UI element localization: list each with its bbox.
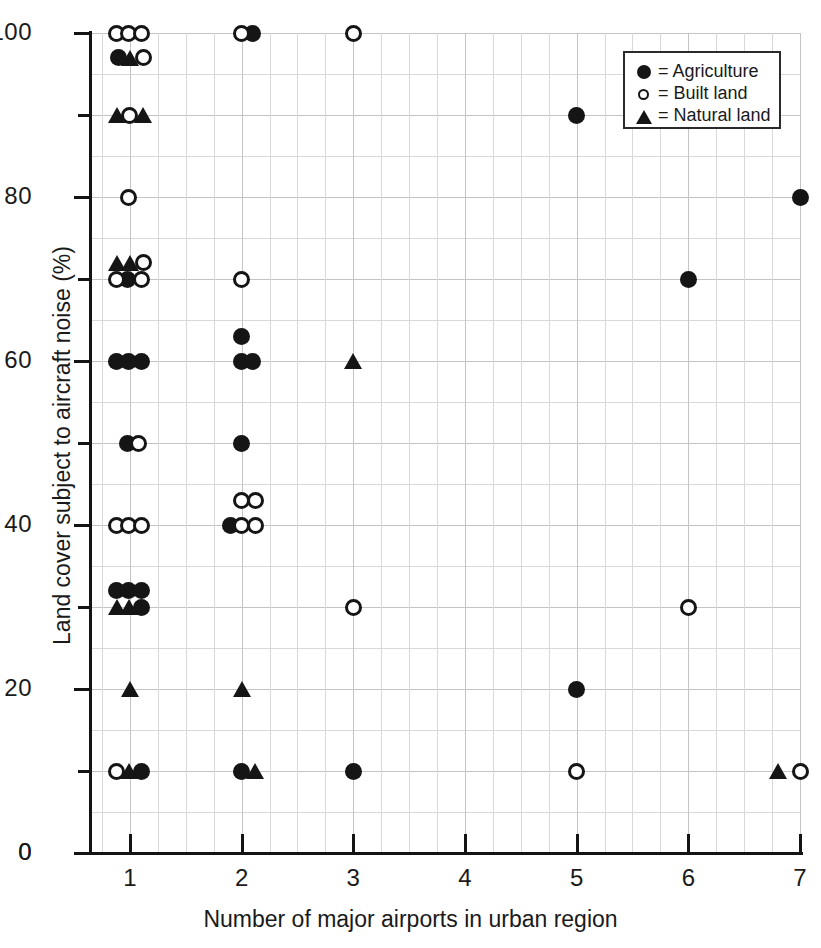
data-point-agriculture xyxy=(680,271,697,288)
gridline-vertical xyxy=(353,33,354,853)
gridline-vertical xyxy=(325,33,326,853)
gridline-horizontal xyxy=(92,156,800,157)
gridline-vertical xyxy=(297,33,298,853)
x-axis-tick-major xyxy=(576,834,579,855)
data-point-built-land xyxy=(680,599,697,616)
data-point-built-land xyxy=(108,271,125,288)
data-point-built-land xyxy=(133,517,150,534)
gridline-vertical xyxy=(381,33,382,853)
gridline-vertical xyxy=(800,33,801,853)
gridline-vertical xyxy=(688,33,689,853)
open-circle-icon xyxy=(636,85,653,102)
gridline-vertical xyxy=(521,33,522,853)
x-axis-line xyxy=(89,852,803,855)
filled-circle-icon xyxy=(636,63,653,80)
data-point-built-land xyxy=(233,271,250,288)
x-axis-tick-label: 1 xyxy=(110,866,150,890)
x-axis-tick-label: 7 xyxy=(780,866,820,890)
x-axis-tick-label: 4 xyxy=(445,866,485,890)
y-axis-tick-label: 100 xyxy=(0,20,32,44)
y-axis-tick-minor xyxy=(78,114,92,117)
y-axis-tick-major xyxy=(74,360,92,363)
gridline-vertical xyxy=(577,33,578,853)
legend-item-label: = Natural land xyxy=(658,105,771,126)
legend-item-built-land: = Built land xyxy=(636,82,779,104)
data-point-built-land xyxy=(247,517,264,534)
data-point-built-land xyxy=(792,763,809,780)
gridline-horizontal xyxy=(92,402,800,403)
gridline-vertical xyxy=(744,33,745,853)
y-axis-tick-minor xyxy=(78,442,92,445)
data-point-natural-land xyxy=(121,681,139,697)
gridline-horizontal xyxy=(92,525,800,526)
plot-area xyxy=(92,33,800,853)
gridline-horizontal xyxy=(92,33,800,34)
data-point-agriculture xyxy=(233,435,250,452)
gridline-vertical xyxy=(660,33,661,853)
gridline-vertical xyxy=(270,33,271,853)
x-axis-title: Number of major airports in urban region xyxy=(0,906,821,933)
gridline-horizontal xyxy=(92,771,800,772)
data-point-built-land xyxy=(345,599,362,616)
gridline-vertical xyxy=(437,33,438,853)
data-point-built-land xyxy=(568,763,585,780)
x-axis-tick-label: 3 xyxy=(333,866,373,890)
gridline-horizontal xyxy=(92,443,800,444)
x-axis-tick-label: 6 xyxy=(668,866,708,890)
gridline-vertical xyxy=(632,33,633,853)
y-axis-tick-label: 40 xyxy=(0,512,32,536)
data-point-agriculture xyxy=(133,353,150,370)
x-axis-tick-major xyxy=(129,834,132,855)
gridline-horizontal xyxy=(92,648,800,649)
data-point-built-land xyxy=(345,25,362,42)
gridline-horizontal xyxy=(92,361,800,362)
y-axis-tick-minor xyxy=(78,278,92,281)
y-axis-tick-label: 80 xyxy=(0,184,32,208)
data-point-natural-land xyxy=(344,353,362,369)
gridline-vertical xyxy=(214,33,215,853)
filled-circle-glyph xyxy=(637,65,651,79)
data-point-agriculture xyxy=(568,681,585,698)
data-point-built-land xyxy=(233,25,250,42)
y-axis-tick-major xyxy=(74,524,92,527)
legend-item-agriculture: = Agriculture xyxy=(636,60,779,82)
triangle-glyph xyxy=(636,110,652,124)
gridline-vertical xyxy=(186,33,187,853)
data-point-natural-land xyxy=(108,107,126,123)
data-point-natural-land xyxy=(233,681,251,697)
gridline-horizontal xyxy=(92,689,800,690)
open-circle-glyph xyxy=(638,89,649,100)
y-axis-tick-minor xyxy=(78,770,92,773)
data-point-natural-land xyxy=(246,763,264,779)
data-point-agriculture xyxy=(345,763,362,780)
axis-origin-label: 0 xyxy=(0,840,32,864)
gridline-vertical xyxy=(605,33,606,853)
legend-item-label: = Built land xyxy=(658,83,748,104)
gridline-vertical xyxy=(409,33,410,853)
data-point-agriculture xyxy=(133,582,150,599)
gridline-horizontal xyxy=(92,566,800,567)
data-point-natural-land xyxy=(121,50,139,66)
chart-legend: = Agriculture= Built land= Natural land xyxy=(623,51,781,129)
y-axis-tick-label: 20 xyxy=(0,676,32,700)
data-point-natural-land xyxy=(134,107,152,123)
gridline-horizontal xyxy=(92,197,800,198)
data-point-built-land xyxy=(130,435,147,452)
gridline-horizontal xyxy=(92,238,800,239)
gridline-vertical xyxy=(102,33,103,853)
data-point-agriculture xyxy=(244,353,261,370)
x-axis-tick-label: 2 xyxy=(222,866,262,890)
data-point-natural-land xyxy=(120,599,138,615)
x-axis-tick-label: 5 xyxy=(557,866,597,890)
data-point-agriculture xyxy=(568,107,585,124)
y-axis-tick-major xyxy=(74,688,92,691)
data-point-natural-land xyxy=(121,255,139,271)
y-axis-tick-label: 60 xyxy=(0,348,32,372)
y-axis-tick-minor xyxy=(78,606,92,609)
data-point-built-land xyxy=(133,271,150,288)
gridline-vertical xyxy=(465,33,466,853)
gridline-horizontal xyxy=(92,484,800,485)
gridline-horizontal xyxy=(92,812,800,813)
data-point-agriculture xyxy=(233,328,250,345)
legend-item-label: = Agriculture xyxy=(658,61,759,82)
